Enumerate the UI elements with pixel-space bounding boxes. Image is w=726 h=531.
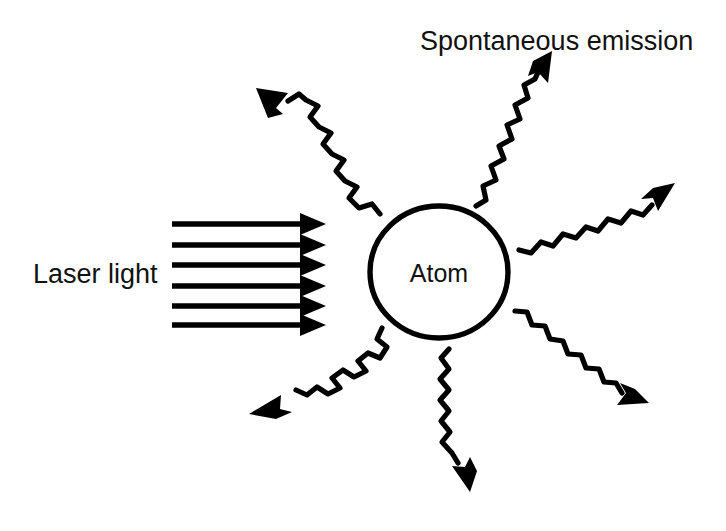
- emission-arrow-right-down: [515, 311, 649, 405]
- spontaneous-emission-label: Spontaneous emission: [420, 26, 693, 56]
- emission-arrow-down-left: [249, 328, 387, 419]
- laser-ray: [172, 295, 326, 317]
- laser-ray: [172, 275, 326, 297]
- laser-light-label: Laser light: [33, 259, 158, 289]
- emission-arrow-up: [476, 51, 552, 206]
- laser-ray: [172, 314, 326, 336]
- laser-ray: [172, 213, 326, 235]
- emission-arrow-up-left: [256, 88, 380, 214]
- laser-ray: [172, 254, 326, 276]
- emission-arrow-down: [440, 349, 477, 492]
- atom-label: Atom: [410, 259, 468, 287]
- figure-canvas: Spontaneous emission Laser light Atom: [0, 0, 726, 531]
- emission-arrow-right-up: [519, 183, 675, 253]
- laser-cooling-diagram: Spontaneous emission Laser light Atom: [0, 0, 726, 531]
- laser-beam-group: [172, 213, 326, 336]
- laser-ray: [172, 234, 326, 256]
